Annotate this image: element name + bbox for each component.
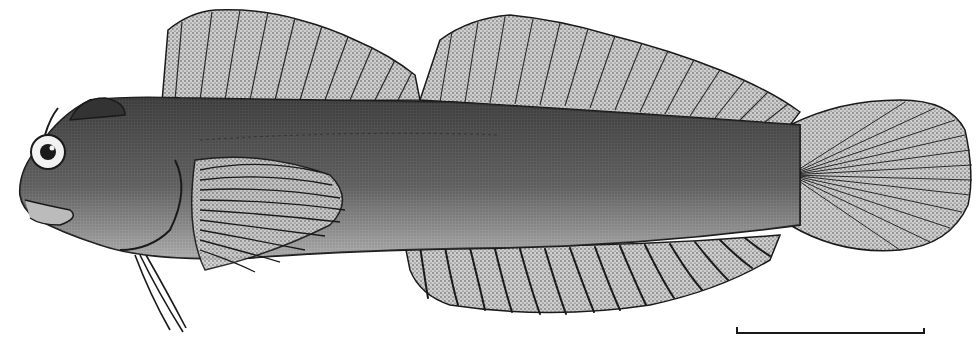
pelvic-fin bbox=[135, 255, 186, 332]
figure-canvas bbox=[0, 0, 980, 341]
caudal-fin bbox=[790, 100, 972, 251]
first-dorsal-fin bbox=[162, 10, 420, 102]
eye bbox=[31, 135, 65, 169]
fish-illustration bbox=[0, 0, 980, 341]
fish-body bbox=[20, 97, 800, 258]
scale-bar bbox=[737, 327, 924, 334]
